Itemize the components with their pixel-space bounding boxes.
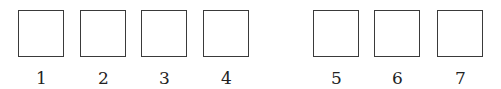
empty-box	[437, 10, 483, 57]
box-label: 2	[80, 68, 127, 88]
box-cell-4: 4	[203, 10, 249, 57]
box-label: 6	[374, 68, 421, 88]
box-label: 7	[437, 68, 484, 88]
box-cell-1: 1	[18, 10, 64, 57]
empty-box	[313, 10, 359, 57]
box-cell-2: 2	[80, 10, 126, 57]
box-cell-5: 5	[313, 10, 359, 57]
box-label: 5	[313, 68, 360, 88]
box-label: 3	[141, 68, 188, 88]
box-cell-6: 6	[374, 10, 420, 57]
box-cell-3: 3	[141, 10, 187, 57]
empty-box	[80, 10, 126, 57]
empty-box	[18, 10, 64, 57]
box-cell-7: 7	[437, 10, 483, 57]
empty-box	[203, 10, 249, 57]
box-label: 4	[203, 68, 250, 88]
box-label: 1	[18, 68, 65, 88]
empty-box	[141, 10, 187, 57]
empty-box	[374, 10, 420, 57]
